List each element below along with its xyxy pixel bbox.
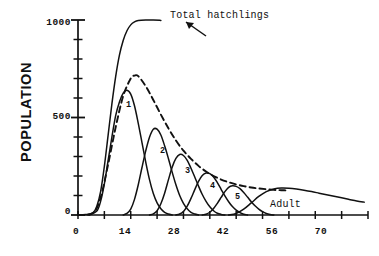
plot-area [0,0,379,256]
curve-total-hatchlings [78,20,161,215]
total-hatchlings-arrow [186,22,206,36]
curve-instar-1 [89,90,172,215]
population-dynamics-figure: POPULATION 1000 500 0 0 14 28 42 56 70 1… [0,0,379,256]
curve-adult [229,188,365,215]
curve-total-larvae-dashed [78,75,289,215]
curves-group [78,20,364,215]
